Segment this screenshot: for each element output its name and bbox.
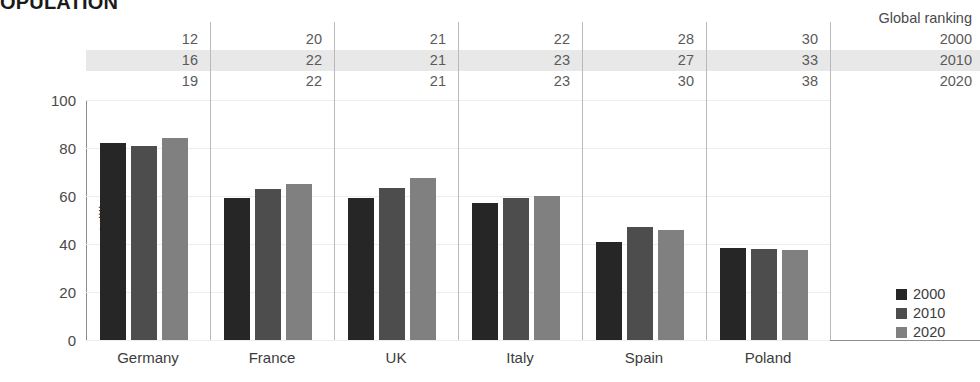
y-tick-label: 100 xyxy=(6,93,76,108)
ranking-value: 12 xyxy=(86,29,198,50)
bar-spain-2000 xyxy=(596,242,622,340)
x-tick-label-italy: Italy xyxy=(458,349,582,366)
ranking-value: 20 xyxy=(210,29,322,50)
ranking-row: 1220212228302000 xyxy=(0,29,980,50)
ranking-row: 1622212327332010 xyxy=(0,50,980,71)
x-tick-label-poland: Poland xyxy=(706,349,830,366)
legend-label: 2000 xyxy=(913,286,945,303)
ranking-value: 21 xyxy=(334,50,446,71)
bar-spain-2010 xyxy=(627,227,653,340)
bar-italy-2010 xyxy=(503,198,529,340)
ranking-value: 33 xyxy=(706,50,818,71)
group-separator xyxy=(706,22,707,340)
bar-italy-2000 xyxy=(472,203,498,340)
legend-label: 2020 xyxy=(913,324,945,341)
ranking-value: 30 xyxy=(706,29,818,50)
ranking-value: 38 xyxy=(706,71,818,92)
ranking-value: 19 xyxy=(86,71,198,92)
y-tick-label: 80 xyxy=(6,141,76,156)
bar-germany-2000 xyxy=(100,143,126,340)
legend-swatch-2020 xyxy=(896,327,907,338)
ranking-row-year: 2000 xyxy=(830,29,972,50)
bar-germany-2020 xyxy=(162,138,188,340)
ranking-value: 21 xyxy=(334,29,446,50)
ranking-header-label: Global ranking xyxy=(830,8,972,29)
global-ranking-table: Global ranking 1220212228302000162221232… xyxy=(0,22,980,100)
x-tick-label-germany: Germany xyxy=(86,349,210,366)
bar-france-2000 xyxy=(224,198,250,340)
ranking-row-year: 2010 xyxy=(830,50,972,71)
bar-poland-2000 xyxy=(720,248,746,340)
chart-page: OPULATION Global ranking 122021222830200… xyxy=(0,0,980,382)
ranking-value: 21 xyxy=(334,71,446,92)
x-tick-label-uk: UK xyxy=(334,349,458,366)
group-separator xyxy=(210,22,211,340)
bar-germany-2010 xyxy=(131,146,157,340)
x-tick-label-spain: Spain xyxy=(582,349,706,366)
y-tick-label: 60 xyxy=(6,189,76,204)
ranking-row: 1922212330382020 xyxy=(0,71,980,92)
group-separator xyxy=(582,22,583,340)
legend-swatch-2010 xyxy=(896,308,907,319)
x-tick-label-france: France xyxy=(210,349,334,366)
bar-italy-2020 xyxy=(534,196,560,340)
y-tick-label: 40 xyxy=(6,237,76,252)
bar-france-2020 xyxy=(286,184,312,340)
y-tick-label: 0 xyxy=(6,333,76,348)
ranking-value: 23 xyxy=(458,71,570,92)
legend-label: 2010 xyxy=(913,305,945,322)
group-separator xyxy=(458,22,459,340)
bar-france-2010 xyxy=(255,189,281,340)
group-separator xyxy=(830,22,831,340)
y-tick-label: 20 xyxy=(6,285,76,300)
bar-uk-2010 xyxy=(379,188,405,340)
bar-uk-2000 xyxy=(348,198,374,340)
ranking-value: 28 xyxy=(582,29,694,50)
ranking-value: 23 xyxy=(458,50,570,71)
bar-uk-2020 xyxy=(410,178,436,340)
ranking-value: 27 xyxy=(582,50,694,71)
bar-poland-2020 xyxy=(782,250,808,340)
bar-poland-2010 xyxy=(751,249,777,340)
ranking-value: 30 xyxy=(582,71,694,92)
legend-swatch-2000 xyxy=(896,289,907,300)
ranking-value: 22 xyxy=(210,71,322,92)
ranking-row-year: 2020 xyxy=(830,71,972,92)
bar-spain-2020 xyxy=(658,230,684,340)
ranking-value: 22 xyxy=(210,50,322,71)
ranking-value: 16 xyxy=(86,50,198,71)
group-separator xyxy=(334,22,335,340)
page-title: OPULATION xyxy=(0,0,118,14)
gridline xyxy=(86,340,830,341)
ranking-value: 22 xyxy=(458,29,570,50)
